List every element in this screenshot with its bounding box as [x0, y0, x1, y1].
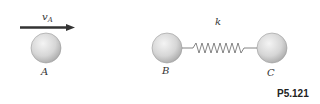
ball-b-label: B: [162, 65, 169, 76]
ball-c-label: C: [267, 67, 275, 78]
ball-c: [257, 33, 287, 63]
diagram: vA k A B C P5.121: [0, 0, 320, 104]
spring-icon: [182, 43, 257, 53]
velocity-label: vA: [42, 11, 53, 24]
ball-a: [31, 33, 61, 63]
figure-number: P5.121: [277, 88, 309, 99]
velocity-arrow-icon: [20, 24, 75, 31]
ball-a-label: A: [41, 66, 48, 77]
ball-b: [152, 33, 182, 63]
spring-constant-label: k: [215, 16, 221, 27]
